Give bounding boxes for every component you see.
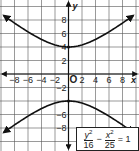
equation-label: y2 16 − x2 25 = 1 (76, 127, 139, 151)
svg-text:2: 2 (79, 75, 84, 85)
svg-text:−8: −8 (56, 123, 66, 133)
svg-text:y: y (72, 1, 79, 11)
svg-text:4: 4 (93, 75, 98, 85)
vertex-point (67, 99, 70, 102)
svg-text:−8: −8 (9, 75, 19, 85)
svg-text:8: 8 (61, 15, 66, 25)
fraction-x-term: x2 25 (105, 128, 115, 150)
svg-text:O: O (70, 74, 78, 85)
tick-labels: −8−6−4−224688642−2−6−8Oxy (9, 1, 137, 133)
svg-text:−6: −6 (56, 110, 66, 120)
svg-text:6: 6 (61, 29, 66, 39)
equation-rhs: = 1 (117, 134, 132, 144)
svg-text:−2: −2 (56, 83, 66, 93)
fraction-y-term: y2 16 (83, 128, 93, 150)
minus-operator: − (95, 134, 102, 144)
svg-text:x: x (130, 75, 137, 85)
svg-text:2: 2 (61, 56, 66, 66)
svg-text:−6: −6 (23, 75, 33, 85)
svg-text:8: 8 (120, 75, 125, 85)
vertex-point (67, 45, 70, 48)
svg-text:6: 6 (106, 75, 111, 85)
svg-text:−4: −4 (36, 75, 46, 85)
